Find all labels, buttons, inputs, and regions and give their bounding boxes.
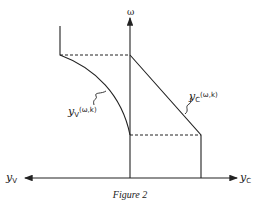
yv-curve <box>60 26 130 135</box>
figure-caption: Figure 2 <box>112 189 147 200</box>
omega-label: ω <box>127 7 134 17</box>
yv-curve-label: yV(ω,k) <box>67 105 97 119</box>
yv-axis-label: yV <box>5 171 17 185</box>
figure-diagram: ω yV yC yV(ω,k) yC(ω,k) Figure 2 <box>0 0 261 204</box>
yv-leader <box>94 91 106 105</box>
yc-curve-label: yC(ω,k) <box>188 90 218 104</box>
yc-curve <box>130 55 201 178</box>
yc-axis-label: yC <box>239 171 251 185</box>
